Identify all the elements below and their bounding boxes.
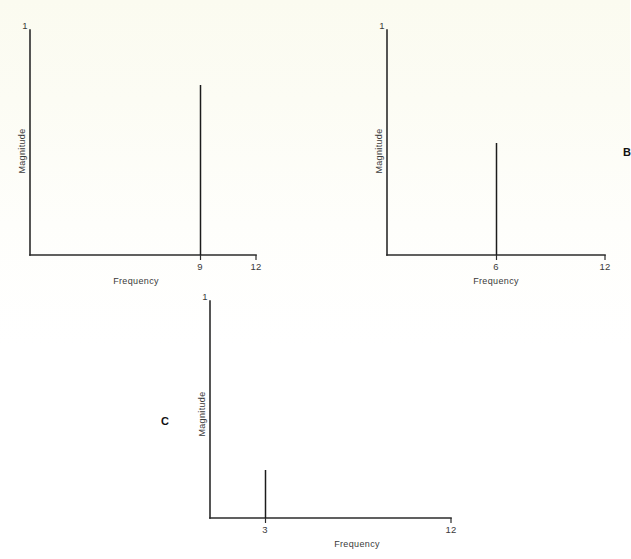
panel-b-y-axis-title: Magnitude	[374, 123, 384, 179]
panel-c-x-axis-title: Frequency	[334, 539, 380, 549]
panel-c-y-axis-title: Magnitude	[197, 386, 207, 442]
panel-b: 1 6 12 Frequency Magnitude B	[357, 0, 630, 290]
panel-a-tick-label-0: 9	[197, 261, 202, 272]
panel-a-x-axis-title: Frequency	[113, 276, 159, 286]
panel-b-ymax-label: 1	[379, 20, 384, 31]
panel-a-y-axis-title: Magnitude	[17, 123, 27, 179]
panel-b-letter: B	[623, 146, 631, 158]
panel-a-ymax-label: 1	[22, 20, 27, 31]
panel-c-letter: C	[161, 415, 169, 427]
panel-a-tick-label-1: 12	[251, 261, 262, 272]
panel-b-plot	[357, 0, 630, 290]
panel-b-x-axis-title: Frequency	[473, 276, 519, 286]
panel-c-ymax-label: 1	[202, 291, 207, 302]
panel-a-plot	[0, 0, 300, 290]
panel-b-tick-label-1: 12	[600, 261, 611, 272]
panel-a: 1 9 12 Frequency Magnitude	[0, 0, 300, 290]
panel-c-tick-label-0: 3	[262, 524, 267, 535]
panel-c-tick-label-1: 12	[446, 524, 457, 535]
panel-c: 1 3 12 Frequency Magnitude C	[155, 290, 485, 559]
panel-b-tick-label-0: 6	[493, 261, 498, 272]
